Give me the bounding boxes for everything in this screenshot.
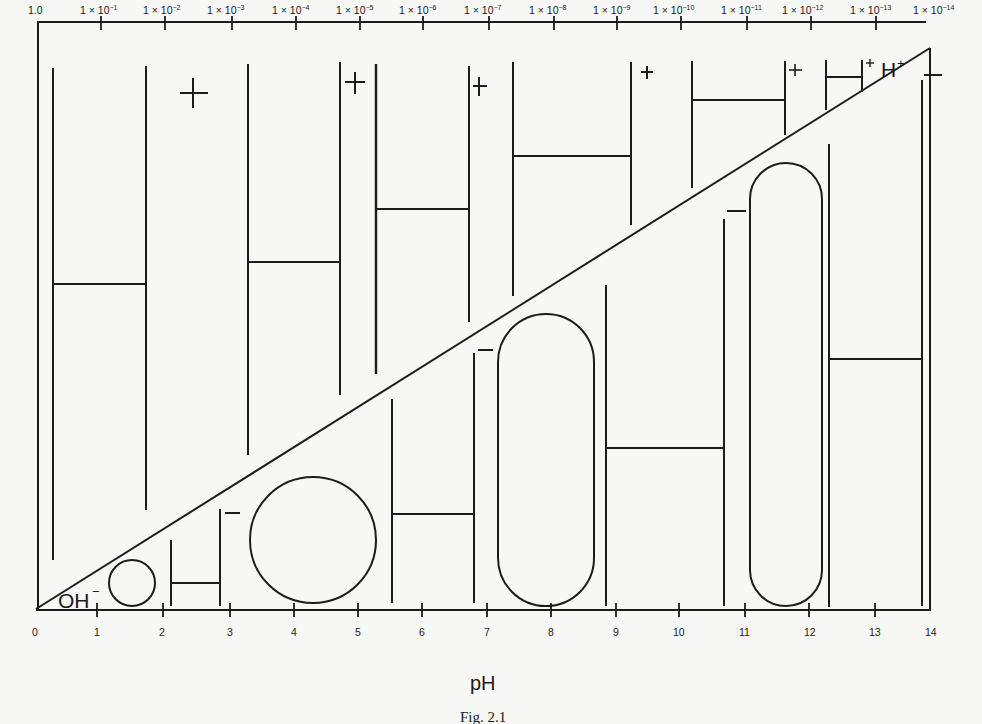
- top-tick-label-4: 1 × 10−4: [272, 4, 310, 16]
- top-tick-label-0: 1.0: [28, 4, 43, 16]
- svg-text:OH: OH: [58, 589, 90, 612]
- svg-text:4: 4: [291, 626, 297, 638]
- top-tick-label-3: 1 × 10−3: [207, 4, 245, 16]
- top-tick-label-11: 1 × 10−11: [721, 4, 762, 16]
- oh-minus-h-ph2: [171, 509, 240, 606]
- h-plus-label: H +: [881, 56, 905, 81]
- svg-text:8: 8: [548, 626, 554, 638]
- top-tick-label-1: 1 × 10−1: [80, 4, 118, 16]
- svg-text:6: 6: [419, 626, 425, 638]
- svg-text:11: 11: [739, 626, 750, 638]
- oh-minus-o-ph12: [750, 163, 822, 606]
- h-plus-glyph-ph12: [826, 59, 874, 110]
- svg-text:2: 2: [159, 626, 165, 638]
- h-plus-glyph-ph4: [248, 62, 365, 455]
- svg-text:10: 10: [673, 626, 685, 638]
- svg-text:0: 0: [32, 626, 38, 638]
- top-tick-label-10: 1 × 10−10: [653, 4, 694, 16]
- diagonal-divider-line: [36, 48, 930, 609]
- bottom-axis-tick-labels: 0 1 2 3 4 5 6 7 8 9 10 11 12 13 14: [32, 626, 937, 638]
- h-plus-glyphs: H +: [53, 56, 905, 560]
- svg-text:5: 5: [355, 626, 361, 638]
- oh-minus-glyphs: OH −: [58, 75, 942, 612]
- h-plus-glyph-ph6: [376, 64, 487, 374]
- h-plus-glyph-ph11: [692, 61, 802, 188]
- top-tick-label-14: 1 × 10−14: [913, 4, 954, 16]
- bottom-ph-axis: 0 1 2 3 4 5 6 7 8 9 10 11 12 13 14 pH: [32, 603, 937, 694]
- top-tick-label-6: 1 × 10−6: [399, 4, 437, 16]
- frame: [36, 21, 931, 610]
- top-tick-label-5: 1 × 10−5: [336, 4, 374, 16]
- top-axis-tick-labels: 1.0 1 × 10−1 1 × 10−2 1 × 10−3 1 × 10−4 …: [28, 4, 954, 16]
- top-tick-label-12: 1 × 10−12: [782, 4, 823, 16]
- svg-text:13: 13: [869, 626, 881, 638]
- svg-text:12: 12: [804, 626, 816, 638]
- top-tick-label-7: 1 × 10−7: [464, 4, 502, 16]
- oh-minus-h-ph10: [606, 211, 746, 606]
- svg-text:H: H: [881, 58, 896, 81]
- top-tick-label-13: 1 × 10−13: [850, 4, 891, 16]
- bottom-axis-title: pH: [470, 672, 496, 694]
- oh-minus-o-ph8: [498, 314, 594, 606]
- ph-scale-diagram: 1.0 1 × 10−1 1 × 10−2 1 × 10−3 1 × 10−4 …: [0, 0, 982, 724]
- top-tick-label-9: 1 × 10−9: [593, 4, 631, 16]
- h-plus-glyph-ph1: [53, 66, 208, 560]
- svg-text:3: 3: [227, 626, 233, 638]
- svg-text:+: +: [897, 56, 905, 71]
- oh-minus-label: OH −: [58, 584, 100, 612]
- svg-text:14: 14: [925, 626, 937, 638]
- top-tick-label-2: 1 × 10−2: [143, 4, 181, 16]
- h-plus-glyph-ph8: [513, 62, 653, 296]
- oh-minus-h-ph13: [829, 75, 942, 607]
- top-tick-label-8: 1 × 10−8: [529, 4, 567, 16]
- figure-caption: Fig. 2.1: [460, 709, 506, 724]
- oh-minus-h-ph6: [392, 350, 493, 603]
- svg-text:7: 7: [484, 626, 490, 638]
- svg-text:−: −: [92, 584, 100, 599]
- oh-minus-o-ph4: [250, 477, 376, 603]
- svg-text:9: 9: [613, 626, 619, 638]
- oh-minus-o-ph1: [109, 560, 155, 606]
- svg-text:1: 1: [94, 626, 100, 638]
- top-concentration-axis: 1.0 1 × 10−1 1 × 10−2 1 × 10−3 1 × 10−4 …: [28, 4, 954, 30]
